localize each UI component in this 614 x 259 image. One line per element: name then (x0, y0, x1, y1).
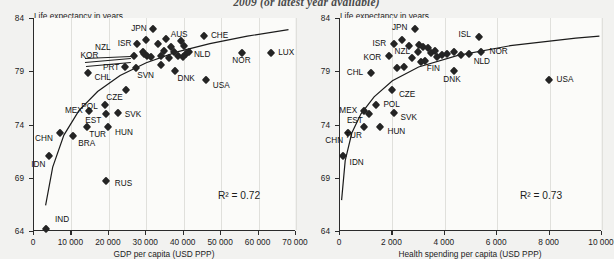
y-axis-tick-label: 74 (2, 120, 24, 130)
x-axis-tick-label: 0 (337, 237, 342, 247)
y-axis-tick-label: 69 (308, 173, 330, 183)
data-point-label: IND (55, 216, 69, 224)
x-axis-tick-label: 10 000 (588, 237, 613, 247)
x-axis-title-gdp: GDP per capita (USD PPP) (33, 249, 295, 259)
data-point-label: IDN (31, 161, 45, 169)
data-point-label: KOR (81, 52, 99, 60)
data-point-label: HUN (115, 129, 133, 137)
data-point-label: NOR (489, 48, 507, 56)
data-point-label: TUR (89, 131, 106, 139)
data-point-label: CHL (347, 69, 363, 77)
x-axis-tick (496, 231, 497, 235)
data-point-label: MEX (65, 107, 83, 115)
gridline-vertical (296, 18, 297, 230)
x-axis-tick (601, 231, 602, 235)
data-point-label: ISL (459, 31, 471, 39)
data-point-label: EST (347, 117, 363, 125)
data-point-label: TUR (345, 132, 362, 140)
data-point-label: ISR (373, 39, 387, 47)
data-point-label: RUS (115, 180, 132, 188)
data-point-label: CHN (35, 135, 53, 143)
data-point-label: CHN (325, 137, 343, 145)
x-axis-tick-label: 70 000 (282, 237, 307, 247)
data-point-label: ISR (118, 39, 132, 47)
data-point-label: CZE (106, 94, 122, 102)
y-axis-tick-label: 69 (2, 173, 24, 183)
x-axis-tick (258, 231, 259, 235)
data-point-label: NLD (474, 58, 490, 66)
y-axis-tick (335, 125, 339, 126)
data-point-label: POL (383, 101, 399, 109)
y-axis-tick-label: 64 (2, 226, 24, 236)
y-axis-tick-label: 84 (308, 13, 330, 23)
data-point-label: USA (557, 76, 574, 84)
y-axis-tick-label: 84 (2, 13, 24, 23)
panel-health: Life expectancy in years IDNCHNTURMEXEST… (306, 0, 613, 255)
x-axis-tick (220, 231, 221, 235)
r-squared-annotation: R² = 0.73 (520, 190, 562, 201)
data-point-label: KOR (364, 54, 382, 62)
data-point-label: DNK (177, 75, 194, 83)
x-axis-tick (549, 231, 550, 235)
y-axis-tick (335, 178, 339, 179)
x-axis-tick (444, 231, 445, 235)
x-axis-tick-label: 8 000 (538, 237, 559, 247)
y-axis-tick (335, 71, 339, 72)
x-axis-tick (70, 231, 71, 235)
data-point-label: JPN (131, 25, 146, 33)
data-point-label: USA (213, 82, 230, 90)
data-point-label: AUS (171, 31, 188, 39)
y-axis-tick (29, 18, 33, 19)
x-axis-tick-label: 0 (31, 237, 36, 247)
x-axis-tick-label: 6 000 (486, 237, 507, 247)
y-axis-tick-label: 64 (308, 226, 330, 236)
data-point-label: LUX (278, 49, 294, 57)
x-axis-tick-label: 50 000 (207, 237, 232, 247)
data-point-label: SVK (400, 114, 416, 122)
data-point-label: DNK (443, 76, 460, 84)
x-axis-title-health: Health spending per capita (USD PPP) (339, 249, 601, 259)
data-point-label: FIN (427, 64, 440, 72)
data-point-label: HUN (388, 128, 406, 136)
x-axis-tick-label: 4 000 (433, 237, 454, 247)
panel-gdp: Life expectancy in years INDIDNCHNRUSBRA… (0, 0, 307, 255)
y-axis-tick (335, 18, 339, 19)
data-point-label: SVN (137, 72, 154, 80)
x-axis-tick (33, 231, 34, 235)
data-point-label: NZL (95, 44, 110, 52)
y-axis-tick (29, 125, 33, 126)
x-axis-tick (183, 231, 184, 235)
y-axis-tick (29, 178, 33, 179)
x-axis-tick (391, 231, 392, 235)
data-point-label: POL (81, 103, 97, 111)
data-point-label: CZE (399, 91, 415, 99)
data-point-label: SVK (125, 111, 141, 119)
data-point-label: NOR (232, 57, 250, 65)
y-axis-tick-label: 74 (308, 120, 330, 130)
y-axis-tick-label: 79 (308, 66, 330, 76)
data-point-label: CHL (95, 74, 111, 82)
y-axis-tick (29, 71, 33, 72)
data-point-label: MEX (339, 107, 357, 115)
x-axis-tick-label: 10 000 (58, 237, 83, 247)
data-point-label: EST (85, 117, 101, 125)
data-point-label: CHE (211, 32, 228, 40)
data-point-label: NLD (194, 51, 210, 59)
x-axis-tick-label: 60 000 (245, 237, 270, 247)
data-point-label: BRA (78, 140, 95, 148)
data-point-label: IDN (350, 159, 364, 167)
x-axis-tick-label: 20 000 (95, 237, 120, 247)
x-axis-tick-label: 30 000 (133, 237, 158, 247)
data-point-label: JPN (392, 24, 407, 32)
x-axis-tick (108, 231, 109, 235)
x-axis-tick (295, 231, 296, 235)
x-axis-tick (145, 231, 146, 235)
x-axis-tick (339, 231, 340, 235)
gridline-vertical (602, 18, 603, 230)
x-axis-tick-label: 2 000 (381, 237, 402, 247)
x-axis-tick-label: 40 000 (170, 237, 195, 247)
r-squared-annotation: R² = 0.72 (218, 190, 260, 201)
y-axis-tick-label: 79 (2, 66, 24, 76)
